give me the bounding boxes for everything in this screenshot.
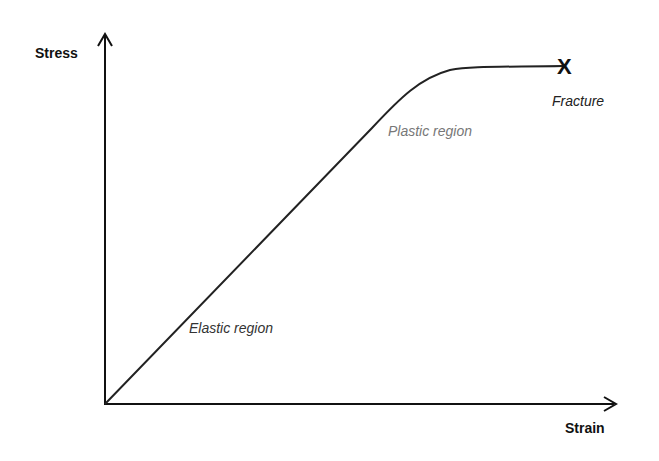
fracture-label: Fracture: [552, 93, 604, 109]
stress-strain-curve: [105, 66, 563, 404]
plastic-region-label: Plastic region: [388, 123, 472, 139]
x-axis-label: Strain: [565, 420, 605, 436]
y-axis-label: Stress: [35, 45, 78, 61]
elastic-region-label: Elastic region: [189, 320, 273, 336]
fracture-x-icon: X: [557, 54, 572, 80]
